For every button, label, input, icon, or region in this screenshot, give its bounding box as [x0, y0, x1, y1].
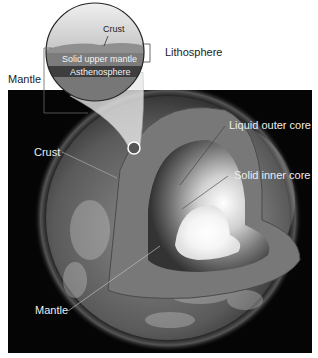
zoom-spot — [128, 142, 140, 154]
label-solid-inner-core: Solid inner core — [234, 170, 310, 181]
label-liquid-outer-core: Liquid outer core — [229, 120, 311, 131]
label-lithosphere: Lithosphere — [165, 47, 223, 58]
label-asthenosphere: Asthenosphere — [70, 68, 131, 77]
label-crust-magnified: Crust — [103, 25, 125, 34]
label-mantle-top: Mantle — [8, 74, 41, 85]
label-mantle-bottom: Mantle — [35, 305, 68, 316]
label-crust: Crust — [34, 147, 60, 158]
label-solid-upper-mantle: Solid upper mantle — [62, 55, 137, 64]
